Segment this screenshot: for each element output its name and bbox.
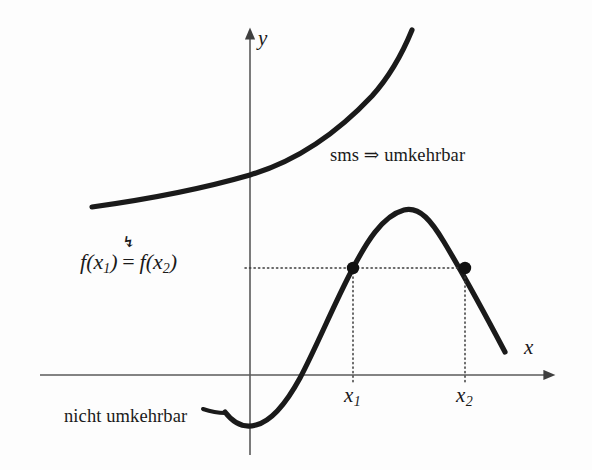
equation-lhs-variable: x [93, 249, 103, 274]
marked-point-x2 [459, 262, 471, 274]
marked-point-x1 [347, 262, 359, 274]
function-invertibility-diagram: y x sms ⇒ umkehrbar nicht umkehrbar f(x1… [0, 0, 592, 470]
x1-tick-subscript: 1 [354, 394, 361, 409]
equation-f-x1-equals-f-x2: f(x1)↯=f(x2) [80, 251, 177, 276]
equals-sign: = [122, 249, 134, 274]
y-axis-label: y [258, 28, 267, 49]
contradiction-lightning-icon: ↯ [122, 235, 135, 250]
x2-tick-label: x2 [456, 385, 473, 409]
x2-tick-subscript: 2 [466, 394, 473, 409]
equation-rhs-close-paren: ) [170, 249, 177, 274]
annotation-leader-line [203, 409, 225, 413]
x1-tick-label: x1 [344, 385, 361, 409]
x1-tick-variable: x [344, 383, 353, 407]
equation-lhs-close-paren: ) [110, 249, 117, 274]
x-axis-label: x [524, 337, 533, 358]
equation-rhs-open-paren: ( [146, 249, 153, 274]
x2-tick-variable: x [456, 383, 465, 407]
diagram-canvas [0, 0, 592, 470]
equation-rhs-variable: x [153, 249, 163, 274]
equation-rhs-subscript: 2 [163, 261, 170, 276]
monotonic-curve [92, 30, 412, 207]
equation-relation: ↯= [121, 251, 137, 273]
sms-invertible-annotation: sms ⇒ umkehrbar [330, 146, 465, 165]
not-invertible-annotation: nicht umkehrbar [64, 407, 187, 426]
